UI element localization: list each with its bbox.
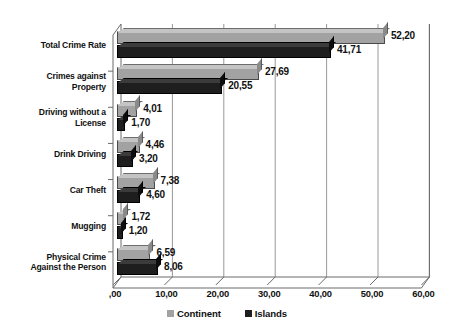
value-tick-label: 60,00	[412, 288, 434, 299]
bar-top-face	[118, 64, 264, 69]
bar-chart: Total Crime RateCrimes againstPropertyDr…	[0, 0, 454, 333]
bar-value-label: 4,46	[146, 139, 165, 150]
bar-islands	[117, 154, 133, 167]
value-tick-label: 50,00	[361, 288, 383, 299]
bars-layer: 52,2027,694,014,467,381,726,5941,7120,55…	[0, 0, 454, 333]
chart-legend: ContinentIslands	[0, 308, 454, 319]
value-tick-label: 10,00	[155, 288, 177, 299]
bar-value-label: 7,38	[161, 175, 180, 186]
bar-side-face	[135, 95, 140, 112]
bar-top-face	[118, 78, 228, 83]
bar-value-label: 1,72	[131, 211, 150, 222]
legend-item[interactable]: Islands	[245, 308, 287, 319]
legend-swatch-icon	[245, 310, 252, 317]
bar-side-face	[138, 131, 143, 148]
bar-islands	[117, 81, 223, 94]
value-axis-tick-labels: ,0010,0020,0030,0040,0050,0060,00	[0, 288, 454, 304]
bar-side-face	[383, 22, 388, 39]
bar-top-face	[118, 28, 390, 33]
value-tick-label: 20,00	[207, 288, 229, 299]
bar-islands	[117, 190, 141, 203]
bar-side-face	[148, 239, 153, 256]
bar-value-label: 3,20	[139, 153, 158, 164]
bar-islands	[117, 262, 158, 275]
value-tick-label: ,00	[109, 288, 121, 299]
bar-side-face	[220, 72, 225, 89]
bar-islands	[117, 45, 331, 58]
value-tick-label: 30,00	[258, 288, 280, 299]
legend-swatch-icon	[167, 310, 174, 317]
bar-islands	[117, 118, 126, 131]
bar-side-face	[153, 167, 158, 184]
bar-side-face	[257, 58, 262, 75]
bar-value-label: 4,01	[143, 103, 162, 114]
legend-label: Continent	[177, 308, 221, 319]
legend-label: Islands	[255, 308, 287, 319]
bar-value-label: 1,70	[131, 117, 150, 128]
bar-value-label: 41,71	[337, 44, 361, 55]
bar-islands	[117, 226, 123, 239]
bar-value-label: 27,69	[265, 66, 289, 77]
bar-top-face	[118, 42, 336, 47]
bar-value-label: 8,06	[164, 261, 183, 272]
legend-item[interactable]: Continent	[167, 308, 221, 319]
value-tick-label: 40,00	[309, 288, 331, 299]
bar-value-label: 1,20	[129, 225, 148, 236]
bar-value-label: 4,60	[146, 189, 165, 200]
bar-value-label: 20,55	[228, 80, 252, 91]
bar-value-label: 52,20	[391, 30, 415, 41]
